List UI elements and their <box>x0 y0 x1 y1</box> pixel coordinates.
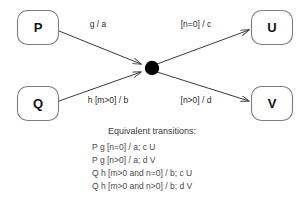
junction-diagram: P Q U V g / a h [m>0] / b [n=0] / c [n <box>0 0 305 213</box>
state-node-q[interactable]: Q <box>18 87 59 121</box>
state-label-u: U <box>267 20 276 35</box>
junction-point[interactable] <box>145 61 159 75</box>
diagram-canvas: P Q U V g / a h [m>0] / b [n=0] / c [n <box>0 0 305 213</box>
state-node-v[interactable]: V <box>252 87 293 121</box>
legend-heading: Equivalent transitions: <box>108 126 196 136</box>
state-label-p: P <box>34 20 43 35</box>
state-label-q: Q <box>33 96 43 111</box>
state-node-u[interactable]: U <box>252 11 293 45</box>
edge-label-junction-to-v: [n>0] / d <box>181 95 212 105</box>
legend-line: Q h [m>0 and n>0] / b; d V <box>92 181 193 191</box>
state-label-v: V <box>268 96 277 111</box>
edge-junction-to-u[interactable] <box>157 30 249 64</box>
edge-p-to-junction[interactable] <box>59 31 141 64</box>
edge-label-q-to-junction: h [m>0] / b <box>88 95 129 105</box>
legend-line: P g [n>0] / a; d V <box>92 155 156 165</box>
state-node-p[interactable]: P <box>18 11 59 45</box>
edge-label-junction-to-u: [n=0] / c <box>181 19 212 29</box>
legend-line: P g [n=0] / a; c U <box>92 142 155 152</box>
edge-label-p-to-junction: g / a <box>90 19 107 29</box>
legend-line: Q h [m>0 and n=0] / b; c U <box>92 168 192 178</box>
